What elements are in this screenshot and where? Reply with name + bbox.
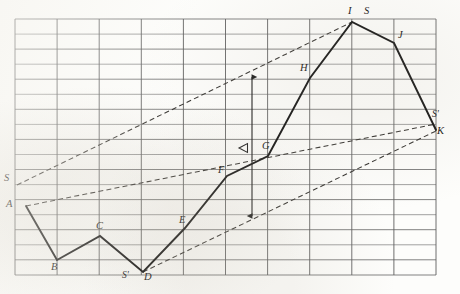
point-label-f: F (218, 165, 225, 176)
swing-label-sprime-d: S' (122, 271, 129, 281)
middle-trend-line (26, 124, 436, 206)
point-label-k: K (437, 126, 444, 137)
point-label-g: G (262, 141, 270, 152)
point-label-a: A (6, 199, 13, 210)
point-label-b: B (51, 262, 58, 273)
trend-lines (17, 22, 436, 272)
diagram-page: A B C D E F G H I J K S S S' S' (0, 0, 460, 294)
point-label-d: D (144, 272, 152, 283)
swing-label-s-top: S (364, 6, 369, 17)
left-triangle-marker (239, 144, 248, 153)
upper-trend-line (17, 22, 352, 185)
grid-columns (15, 19, 436, 275)
swing-label-s-left: S (4, 173, 9, 184)
point-label-c: C (96, 221, 103, 232)
point-label-i: I (348, 6, 352, 17)
point-label-e: E (179, 215, 186, 226)
point-label-h: H (300, 63, 308, 74)
lower-trend-line (143, 131, 436, 272)
diagram-canvas (0, 0, 460, 294)
swing-label-sprime-k: S' (432, 110, 439, 120)
point-label-j: J (398, 30, 403, 41)
price-polyline (26, 22, 436, 272)
